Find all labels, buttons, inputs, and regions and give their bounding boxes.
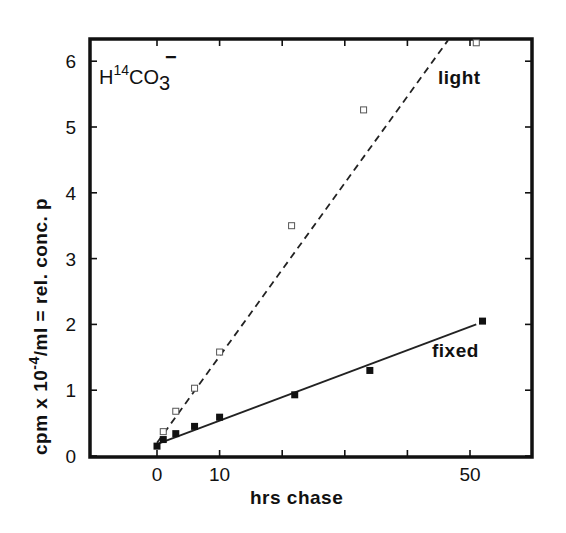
data-point-light — [217, 349, 223, 355]
series-label-light: light — [438, 67, 481, 88]
x-tick-label: 50 — [459, 464, 480, 485]
y-tick-label: 0 — [65, 446, 76, 467]
data-point-fixed — [191, 423, 198, 430]
chart-figure: 01050 0123456 H14CO3 − light fixed hrs c… — [0, 0, 566, 533]
data-point-fixed — [154, 443, 161, 450]
x-axis-title: hrs chase — [250, 487, 343, 508]
ion-charge: − — [165, 46, 177, 68]
y-tick-label: 2 — [65, 314, 76, 335]
data-point-light — [173, 408, 179, 414]
data-point-light — [192, 385, 198, 391]
x-axis-ticks: 01050 — [152, 39, 481, 485]
fit-line-light — [157, 40, 448, 443]
data-point-fixed — [291, 391, 298, 398]
chart-svg: 01050 0123456 H14CO3 − light fixed hrs c… — [0, 0, 566, 533]
plot-frame — [90, 39, 532, 457]
y-tick-label: 4 — [65, 183, 76, 204]
fit-lines — [157, 40, 476, 444]
y-axis-title: cpm x 10-4/ml = rel. conc. p — [26, 198, 51, 455]
ion-annotation: H14CO3 — [99, 62, 170, 94]
data-points — [154, 40, 487, 450]
data-point-fixed — [160, 436, 167, 443]
data-point-fixed — [366, 367, 373, 374]
data-point-light — [473, 40, 479, 46]
y-tick-label: 3 — [65, 249, 76, 270]
y-tick-label: 1 — [65, 380, 76, 401]
y-axis-ticks: 0123456 — [65, 51, 532, 467]
x-tick-label: 0 — [152, 464, 163, 485]
y-tick-label: 5 — [65, 117, 76, 138]
axes-box — [90, 39, 532, 457]
fit-line-fixed — [157, 324, 476, 444]
data-point-light — [160, 429, 166, 435]
data-point-light — [361, 107, 367, 113]
data-point-light — [289, 223, 295, 229]
data-point-fixed — [216, 414, 223, 421]
series-label-fixed: fixed — [432, 340, 479, 361]
data-point-fixed — [172, 430, 179, 437]
y-tick-label: 6 — [65, 51, 76, 72]
data-point-fixed — [479, 318, 486, 325]
x-tick-label: 10 — [209, 464, 230, 485]
